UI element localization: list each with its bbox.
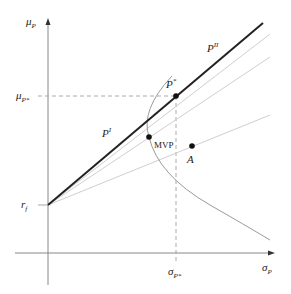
- p-star-label: P*: [166, 78, 176, 90]
- capital-market-line: [48, 23, 263, 205]
- a-point: [189, 143, 195, 149]
- mu-star-tick-label: μP*: [16, 90, 29, 104]
- gray-line-upper: [48, 34, 270, 205]
- rf-tick-label: rf: [21, 199, 27, 213]
- efficient-frontier-curve: [147, 76, 270, 240]
- gray-line-mvp: [48, 57, 270, 205]
- diagram-canvas: [0, 0, 291, 294]
- x-axis-label: σP: [262, 262, 272, 276]
- y-axis-label: μP: [26, 16, 36, 30]
- x-axis-arrow-icon: [268, 251, 275, 256]
- p-one-label: PI: [102, 127, 111, 139]
- mvp-label: MVP: [154, 141, 174, 150]
- mvp-point: [146, 134, 152, 140]
- sigma-star-tick-label: σP*: [168, 266, 181, 280]
- a-label: A: [187, 154, 194, 165]
- y-axis-arrow-icon: [46, 18, 51, 25]
- p-two-label: PII: [207, 42, 218, 54]
- p-star-point: [173, 93, 179, 99]
